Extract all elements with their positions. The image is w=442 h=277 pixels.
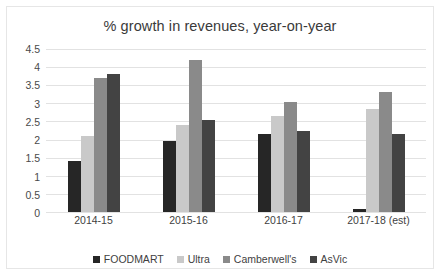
chart-title: % growth in revenues, year-on-year: [7, 18, 433, 34]
legend-swatch-icon: [177, 256, 184, 263]
bar: [68, 161, 81, 212]
y-axis-tick-label: 1: [34, 171, 40, 183]
legend-item[interactable]: AsVic: [310, 253, 348, 265]
legend-label: Ultra: [188, 253, 210, 265]
bar: [107, 74, 120, 212]
bar: [81, 136, 94, 212]
bar-group: [46, 49, 141, 212]
y-axis-tick-label: 3: [34, 98, 40, 110]
chart-container: % growth in revenues, year-on-year 4.543…: [6, 6, 434, 269]
legend-label: Camberwell's: [234, 253, 297, 265]
bar: [258, 134, 271, 212]
x-axis-tick-label: 2017-18 (est): [331, 214, 426, 226]
bar: [94, 78, 107, 212]
bar-group: [236, 49, 331, 212]
legend-swatch-icon: [93, 256, 100, 263]
y-axis-tick-label: 4.5: [25, 43, 40, 55]
bar: [353, 209, 366, 212]
x-axis-tick-label: 2015-16: [141, 214, 236, 226]
y-axis-tick-label: 4: [34, 61, 40, 73]
gridline: 0: [46, 212, 426, 213]
y-axis-tick-label: 0: [34, 207, 40, 219]
bar: [392, 134, 405, 212]
bar: [176, 125, 189, 212]
legend-item[interactable]: FOODMART: [93, 253, 164, 265]
legend-label: FOODMART: [104, 253, 164, 265]
bar: [202, 120, 215, 212]
bar: [163, 141, 176, 212]
x-axis-tick-label: 2016-17: [236, 214, 331, 226]
legend-swatch-icon: [223, 256, 230, 263]
bar: [189, 60, 202, 212]
y-axis-tick-label: 3.5: [25, 79, 40, 91]
x-axis-labels: 2014-152015-162016-172017-18 (est): [46, 214, 426, 226]
bar: [284, 102, 297, 212]
bar-group: [331, 49, 426, 212]
bars-layer: [46, 49, 426, 212]
y-axis-tick-label: 1.5: [25, 152, 40, 164]
legend-item[interactable]: Camberwell's: [223, 253, 297, 265]
legend-label: AsVic: [321, 253, 348, 265]
y-axis-tick-label: 0.5: [25, 189, 40, 201]
y-axis-tick-label: 2.5: [25, 116, 40, 128]
bar: [297, 131, 310, 213]
bar: [366, 109, 379, 212]
plot-area-wrapper: 4.543.532.521.510.50: [46, 49, 426, 212]
legend-swatch-icon: [310, 256, 317, 263]
chart-legend: FOODMARTUltraCamberwell'sAsVic: [7, 253, 433, 265]
bar-group: [141, 49, 236, 212]
bar: [271, 116, 284, 212]
legend-item[interactable]: Ultra: [177, 253, 210, 265]
y-axis-tick-label: 2: [34, 134, 40, 146]
x-axis-tick-label: 2014-15: [46, 214, 141, 226]
bar: [379, 92, 392, 212]
